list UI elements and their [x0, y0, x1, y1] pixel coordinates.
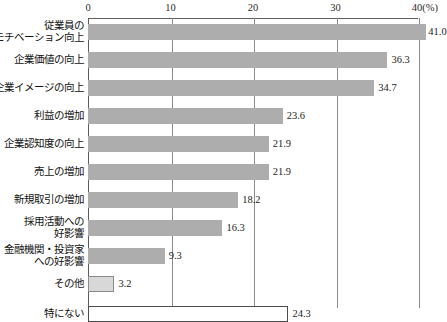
bar-row: 採用活動への 好影響 16.3	[0, 220, 446, 236]
x-tick-label-20: 20	[248, 2, 259, 14]
bar-fill	[88, 248, 165, 264]
x-axis-tick-labels: 0 10 20 30 40(%)	[0, 0, 446, 18]
bar-fill	[88, 52, 387, 68]
bar-fill	[88, 24, 426, 40]
x-axis-unit-label: (%)	[422, 2, 438, 13]
bar-fill	[88, 220, 222, 236]
category-label: その他	[0, 278, 84, 290]
bar-fill	[88, 136, 269, 152]
category-label: 企業認知度の向上	[0, 138, 84, 150]
bar-value-label: 24.3	[292, 308, 310, 320]
bar-rows: 従業員の モチベーション向上 41.0 企業価値の向上 36.3 企業イメージの…	[0, 18, 446, 308]
bar-row: 企業認知度の向上 21.9	[0, 136, 446, 152]
bar-row: 従業員の モチベーション向上 41.0	[0, 24, 446, 40]
bar-row: 利益の増加 23.6	[0, 108, 446, 124]
bar-fill	[88, 276, 114, 292]
bar-row: 企業イメージの向上 34.7	[0, 80, 446, 96]
bar-value-label: 21.9	[273, 166, 291, 178]
bar-value-label: 3.2	[118, 278, 131, 290]
bar-row: 企業価値の向上 36.3	[0, 52, 446, 68]
bar-value-label: 34.7	[378, 82, 396, 94]
x-tick-label-0: 0	[85, 2, 90, 14]
bar-row: 新規取引の増加 18.2	[0, 192, 446, 208]
category-label: 企業価値の向上	[0, 54, 84, 66]
category-label: 利益の増加	[0, 110, 84, 122]
bar-value-label: 41.0	[428, 26, 446, 38]
bar-fill	[88, 80, 374, 96]
bar-value-label: 36.3	[391, 54, 409, 66]
category-label: 新規取引の増加	[0, 194, 84, 206]
bar-value-label: 18.2	[242, 194, 260, 206]
bar-fill	[88, 108, 283, 124]
category-label: 企業イメージの向上	[0, 82, 84, 94]
bar-fill	[88, 164, 269, 180]
bar-fill	[88, 306, 288, 322]
bar-value-label: 16.3	[226, 222, 244, 234]
category-label: 特にない	[0, 308, 84, 320]
bar-row: 特にない 24.3	[0, 306, 446, 322]
x-tick-label-10: 10	[165, 2, 176, 14]
bar-value-label: 21.9	[273, 138, 291, 150]
category-label: 採用活動への 好影響	[0, 216, 84, 240]
category-label: 金融機関・投資家 への好影響	[0, 244, 84, 268]
x-tick-label-40-value: 40	[412, 2, 423, 13]
bar-value-label: 23.6	[287, 110, 305, 122]
bar-row: その他 3.2	[0, 276, 446, 292]
x-tick-label-40: 40(%)	[412, 2, 438, 14]
bar-value-label: 9.3	[169, 250, 182, 262]
bar-row: 売上の増加 21.9	[0, 164, 446, 180]
category-label: 従業員の モチベーション向上	[0, 20, 84, 44]
bar-row: 金融機関・投資家 への好影響 9.3	[0, 248, 446, 264]
bar-fill	[88, 192, 238, 208]
category-label: 売上の増加	[0, 166, 84, 178]
x-tick-label-30: 30	[330, 2, 341, 14]
